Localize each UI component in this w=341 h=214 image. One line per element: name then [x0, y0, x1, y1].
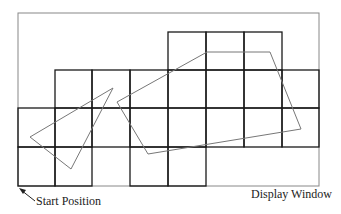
grid-cell — [55, 70, 92, 108]
grid-cell — [18, 108, 55, 147]
grid-cell — [130, 108, 168, 147]
tiling-diagram — [0, 0, 341, 214]
grid-cell — [55, 147, 92, 186]
grid-cell — [168, 147, 206, 186]
triangle-shape — [30, 88, 113, 169]
grid-cell — [206, 32, 244, 70]
grid-cell — [244, 108, 282, 147]
grid-cell — [168, 32, 206, 70]
grid-cell — [244, 32, 282, 70]
grid-cell — [18, 147, 55, 186]
grid-cell — [130, 70, 168, 108]
start-position-label: Start Position — [36, 194, 101, 209]
display-window-label: Display Window — [251, 187, 332, 202]
grid-cell — [282, 70, 319, 108]
grid-cell — [206, 70, 244, 108]
polygon-shape — [117, 52, 301, 154]
grid-cell — [244, 70, 282, 108]
grid-cell — [168, 70, 206, 108]
grid-cell — [168, 108, 206, 147]
start-arrow-icon — [19, 188, 35, 201]
grid-cell — [130, 147, 168, 186]
grid-cell — [55, 108, 92, 147]
